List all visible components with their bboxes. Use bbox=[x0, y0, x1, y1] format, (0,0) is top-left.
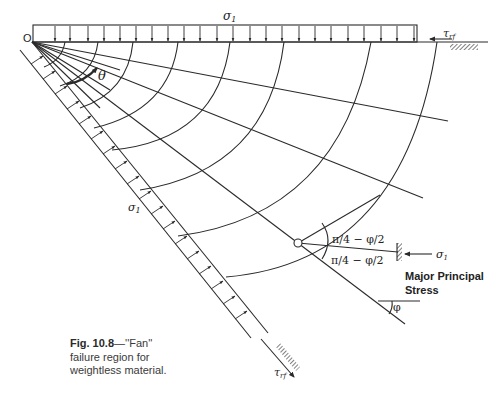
side-band-inner-edge bbox=[32, 42, 268, 333]
figure-caption: Fig. 10.8—''Fan'' failure region for wei… bbox=[70, 337, 210, 378]
phi-label: φ bbox=[393, 301, 401, 314]
top-load-box bbox=[33, 25, 417, 42]
major-principal-label: Major Principal bbox=[405, 270, 484, 282]
side-load-arrows bbox=[31, 56, 247, 319]
stress-word-label: Stress bbox=[405, 284, 439, 296]
upper-angle-label: π/4 − φ/2 bbox=[332, 233, 385, 246]
caption-line-2: failure region for bbox=[70, 351, 210, 365]
principal-plane-hatch bbox=[397, 243, 402, 261]
side-load-label: σ1 bbox=[128, 201, 141, 215]
stress-label: σ1 bbox=[436, 248, 448, 262]
side-band-outer-edge bbox=[20, 50, 251, 338]
theta-label: θ bbox=[98, 68, 106, 83]
top-shear-label: τrf bbox=[443, 27, 456, 41]
stress-point-circle bbox=[294, 239, 302, 247]
ground-hatch-top bbox=[450, 44, 478, 50]
lower-angle-label: π/4 − φ/2 bbox=[331, 254, 384, 267]
origin-label: O bbox=[23, 32, 32, 44]
caption-line-3: weightless material. bbox=[70, 364, 210, 378]
top-load-label: σ1 bbox=[223, 9, 236, 24]
fig-number: Fig. 10.8 bbox=[70, 337, 114, 349]
bottom-shear-label: τrf bbox=[274, 366, 287, 380]
fan-radial-lines bbox=[32, 42, 448, 324]
caption-line-1: Fig. 10.8—''Fan'' bbox=[70, 337, 210, 351]
top-load-arrows bbox=[55, 26, 414, 41]
caption-title: ''Fan'' bbox=[125, 337, 152, 349]
caption-dash: — bbox=[114, 337, 125, 349]
